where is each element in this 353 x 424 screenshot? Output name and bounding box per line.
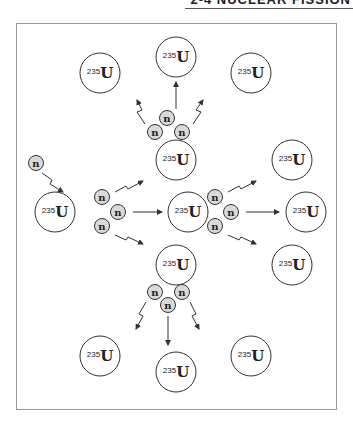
neutron: n: [175, 125, 190, 140]
uranium-nucleus: 235U: [272, 140, 312, 180]
uranium-nucleus: 235U: [80, 336, 120, 376]
svg-text:n: n: [211, 221, 219, 232]
zigzag-arrow-icon: [228, 181, 256, 192]
uranium-nucleus: 235U: [35, 192, 75, 232]
neutron: n: [148, 125, 163, 140]
zigzag-arrow-icon: [137, 100, 145, 124]
zigzag-arrow-icon: [42, 173, 63, 192]
neutron: n: [95, 219, 110, 234]
svg-text:n: n: [114, 207, 122, 218]
neutron: n: [208, 190, 223, 205]
svg-text:n: n: [164, 300, 172, 311]
uranium-nucleus: 235U: [231, 53, 271, 93]
uranium-nucleus: 235U: [272, 245, 312, 285]
uranium-nucleus: 235U: [286, 192, 326, 232]
uranium-nucleus: 235U: [156, 37, 196, 77]
zigzag-arrow-icon: [228, 235, 256, 244]
svg-text:n: n: [151, 127, 159, 138]
neutron: n: [208, 219, 223, 234]
uranium-nucleus: 235U: [156, 140, 196, 180]
uranium-nucleus: 235U: [231, 336, 271, 376]
uranium-nucleus: 235U: [156, 352, 196, 392]
zigzag-arrow-icon: [115, 235, 143, 244]
svg-text:n: n: [98, 192, 106, 203]
neutron: n: [224, 205, 239, 220]
uranium-nucleus: 235U: [156, 245, 196, 285]
neutron: n: [29, 156, 44, 171]
nuclei: 235U235U235U235U235U235U235U235U235U235U…: [35, 37, 326, 392]
fission-chain-diagram: 235U235U235U235U235U235U235U235U235U235U…: [0, 0, 353, 424]
svg-text:n: n: [98, 221, 106, 232]
svg-text:n: n: [178, 287, 186, 298]
svg-text:n: n: [163, 113, 171, 124]
neutron: n: [160, 111, 175, 126]
uranium-nucleus: 235U: [168, 192, 208, 232]
zigzag-arrow-icon: [115, 181, 143, 192]
neutron: n: [148, 285, 163, 300]
zigzag-arrow-icon: [193, 100, 203, 124]
neutron: n: [161, 298, 176, 313]
svg-text:n: n: [32, 158, 40, 169]
svg-text:n: n: [227, 207, 235, 218]
neutron: n: [175, 285, 190, 300]
zigzag-arrow-icon: [136, 302, 146, 329]
svg-text:n: n: [151, 287, 159, 298]
neutron: n: [95, 190, 110, 205]
svg-text:n: n: [178, 127, 186, 138]
neutron: n: [111, 205, 126, 220]
svg-text:n: n: [211, 192, 219, 203]
uranium-nucleus: 235U: [80, 53, 120, 93]
zigzag-arrow-icon: [190, 302, 199, 329]
